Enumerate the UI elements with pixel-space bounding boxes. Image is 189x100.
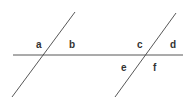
angle-label-b: b [69, 39, 75, 50]
angle-label-d: d [170, 39, 176, 50]
angle-label-f: f [153, 62, 157, 73]
angle-label-a: a [36, 39, 42, 50]
diagram-canvas: a b c d e f [0, 0, 189, 100]
angle-label-c: c [137, 39, 143, 50]
left-transversal-line [12, 12, 75, 97]
angle-label-e: e [121, 62, 127, 73]
